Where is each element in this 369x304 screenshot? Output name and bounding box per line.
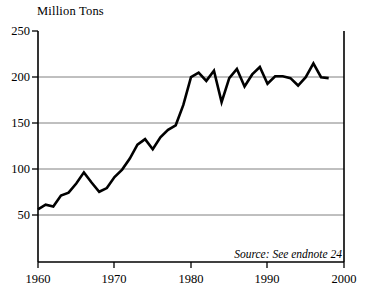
x-tick-label-1980: 1980 (167, 272, 215, 287)
data-series-line (38, 63, 329, 209)
y-axis-ticks (32, 31, 38, 215)
x-tick-label-2000: 2000 (320, 272, 368, 287)
source-note: Source: See endnote 24 (234, 248, 342, 260)
y-tick-label-50: 50 (0, 208, 30, 223)
y-tick-label-250: 250 (0, 24, 30, 39)
x-tick-label-1960: 1960 (14, 272, 62, 287)
grid-lines (38, 77, 344, 215)
x-tick-label-1990: 1990 (243, 272, 291, 287)
x-tick-label-1970: 1970 (90, 272, 138, 287)
plot-frame (38, 31, 344, 262)
y-tick-label-150: 150 (0, 116, 30, 131)
chart-figure: Million Tons 250 200 (0, 0, 369, 304)
y-tick-label-100: 100 (0, 162, 30, 177)
x-axis-ticks (38, 262, 344, 268)
y-tick-label-200: 200 (0, 70, 30, 85)
